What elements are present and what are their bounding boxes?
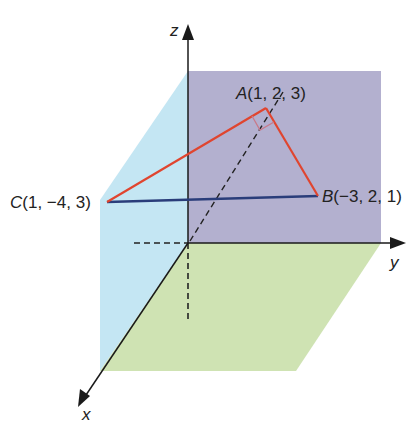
point-A-coords: (1, 2, 3)	[247, 84, 306, 103]
point-B-name: B	[322, 187, 333, 206]
z-axis-arrow-icon	[182, 24, 194, 40]
point-A-name: A	[235, 84, 247, 103]
point-B-coords: (−3, 2, 1)	[333, 187, 402, 206]
point-B-label: B(−3, 2, 1)	[322, 187, 402, 206]
y-axis-arrow-icon	[390, 237, 406, 249]
point-C-name: C	[10, 193, 23, 212]
point-C-coords: (1, −4, 3)	[22, 193, 91, 212]
point-C-label: C(1, −4, 3)	[10, 193, 91, 212]
3d-triangle-diagram: z y x A(1, 2, 3) B(−3, 2, 1) C(1, −4, 3)	[0, 0, 418, 432]
z-axis-label: z	[169, 21, 179, 40]
y-axis-label: y	[389, 253, 400, 272]
x-axis-label: x	[81, 405, 91, 424]
point-A-label: A(1, 2, 3)	[235, 84, 306, 103]
